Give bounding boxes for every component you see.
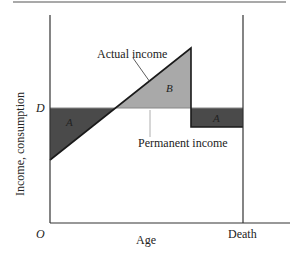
- origin-label: O: [36, 227, 45, 241]
- level-d-label: D: [35, 101, 45, 115]
- permanent-income-label: Permanent income: [138, 136, 228, 150]
- y-axis-label: Income, consumption: [13, 92, 27, 196]
- actual-income-leader: [133, 58, 150, 82]
- region-a-left-label: A: [65, 116, 73, 128]
- actual-income-label: Actual income: [97, 47, 167, 61]
- death-label: Death: [228, 227, 257, 241]
- x-axis-label: Age: [136, 233, 156, 247]
- region-a-right-label: A: [212, 112, 220, 124]
- region-b-label: B: [166, 82, 173, 94]
- life-cycle-income-diagram: Actual income Permanent income D O Age D…: [0, 0, 299, 254]
